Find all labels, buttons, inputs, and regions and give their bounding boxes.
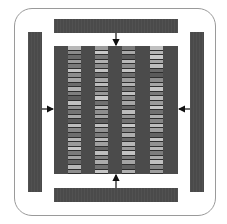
arrows [0,0,227,224]
